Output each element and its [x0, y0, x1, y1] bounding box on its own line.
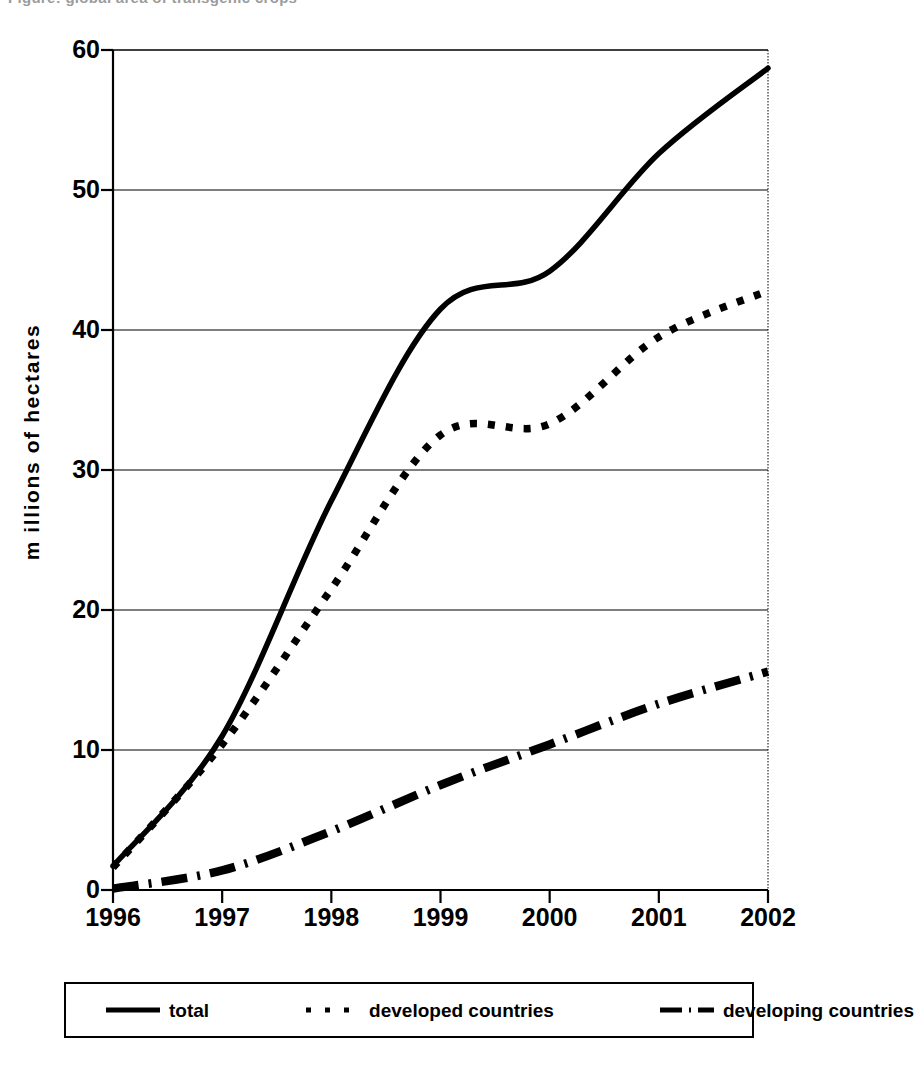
legend: total developed countries developing cou… — [64, 982, 754, 1038]
x-tick-label: 1996 — [58, 905, 168, 930]
legend-entries: total developed countries developing cou… — [66, 984, 752, 1036]
legend-entry-developed: developed countries — [304, 1001, 554, 1020]
data-series-layer — [113, 68, 768, 888]
legend-entry-developing: developing countries — [658, 1001, 914, 1020]
legend-label-total: total — [169, 1001, 209, 1020]
legend-swatch-developing — [658, 1003, 716, 1017]
legend-entry-total: total — [104, 1001, 209, 1020]
series-line-total — [113, 68, 768, 866]
series-line-developing-countries — [113, 672, 768, 889]
x-tick-label: 2002 — [713, 905, 823, 930]
x-tick-label: 1999 — [386, 905, 496, 930]
x-tick-label: 1998 — [276, 905, 386, 930]
legend-label-developing: developing countries — [723, 1001, 914, 1020]
x-axis-tick-labels: 1996199719981999200020012002 — [0, 905, 834, 945]
x-tick-label: 1997 — [167, 905, 277, 930]
x-tick-label: 2001 — [604, 905, 714, 930]
gridlines — [113, 50, 768, 750]
legend-swatch-developed — [304, 1003, 362, 1017]
legend-swatch-total — [104, 1003, 162, 1017]
y-axis-tick-marks — [101, 50, 113, 890]
x-axis-tick-marks — [113, 890, 768, 903]
legend-label-developed: developed countries — [369, 1001, 554, 1020]
x-tick-label: 2000 — [495, 905, 605, 930]
